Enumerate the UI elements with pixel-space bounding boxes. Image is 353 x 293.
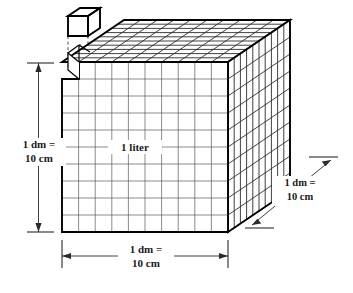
volume-label: 1 liter <box>121 141 149 153</box>
width-label-line2: 10 cm <box>132 257 160 269</box>
figure-root: cubic-decimeter-liter-diagram A cube div… <box>0 0 353 293</box>
width-label-line1: 1 dm = <box>130 243 163 255</box>
unit-cube <box>68 8 100 36</box>
depth-label-line1: 1 dm = <box>284 177 315 188</box>
height-label-line1: 1 dm = <box>23 138 56 150</box>
depth-label-line2: 10 cm <box>287 191 314 202</box>
cubic-decimeter-diagram: cubic-decimeter-liter-diagram A cube div… <box>0 0 353 293</box>
height-label-line2: 10 cm <box>25 152 53 164</box>
volume-callout: 1 liter <box>108 140 162 154</box>
